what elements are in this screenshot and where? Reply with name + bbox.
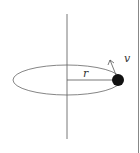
velocity-label: v <box>124 52 131 65</box>
mass-ball <box>112 74 124 86</box>
circular-motion-diagram: r v <box>0 0 140 153</box>
radius-label: r <box>83 67 89 80</box>
velocity-arrow <box>108 60 116 75</box>
